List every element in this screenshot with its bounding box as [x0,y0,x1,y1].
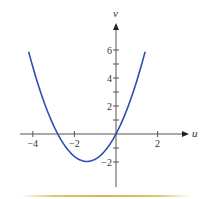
x-tick-label: −2 [69,138,80,149]
decorative-rule [20,195,192,197]
parabola-chart: −4−22 −2246 u v [0,0,206,199]
y-tick-label: 6 [107,45,112,56]
y-tick-label: 4 [107,73,112,84]
x-tick-label: −4 [27,138,38,149]
y-axis-label: v [113,7,118,19]
y-axis-arrow-icon [113,23,119,30]
y-tick-label: 2 [107,101,112,112]
x-axis-arrow-icon [182,131,189,137]
x-tick-labels: −4−22 [27,138,160,149]
parabola-curve [29,52,145,162]
x-axis-label: u [192,127,198,139]
y-tick-label: −2 [101,157,112,168]
x-tick-label: 2 [155,138,160,149]
